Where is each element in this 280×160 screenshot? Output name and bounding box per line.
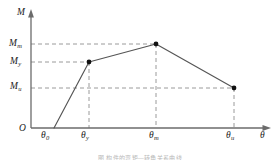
y-tick-base-Mm: M [9,38,17,48]
x-tick-sub-thetay: y [86,134,89,141]
y-tick-label-Mm: Mm [9,39,22,49]
x-tick-label-thetay: θy [81,131,89,141]
y-axis-arrow [28,9,34,18]
y-tick-label-Mu: Mu [10,82,21,92]
x-tick-base-thetay: θ [81,130,86,140]
x-tick-sub-thetam: m [154,134,159,141]
data-point-markers [87,42,237,91]
x-tick-label-thetau: θu [226,131,234,141]
y-tick-sub-My: y [18,60,21,67]
x-tick-label-theta0: θ0 [41,131,49,141]
figure-caption: 图 构件的弯矩—转角关系曲线 [0,153,280,160]
y-tick-sub-Mu: u [18,85,21,92]
x-tick-base-theta0: θ [41,130,46,140]
x-tick-base-thetau: θ [226,130,231,140]
data-point-theta-u [232,86,237,91]
y-tick-base-My: M [10,56,18,66]
x-axis-label: θ [260,131,265,141]
data-point-theta-y [87,60,92,65]
y-tick-sub-Mm: m [17,42,22,49]
x-tick-label-thetam: θm [149,131,158,141]
curve-path [54,44,234,128]
y-axis-label: M [17,8,25,18]
x-tick-sub-theta0: 0 [46,134,49,141]
origin-label: O [19,124,26,134]
x-tick-base-thetam: θ [149,130,154,140]
axes [28,9,271,131]
y-tick-base-Mu: M [10,81,18,91]
x-tick-sub-thetau: u [231,134,234,141]
data-point-theta-m [154,42,159,47]
y-tick-label-My: My [10,57,21,67]
figure-container: M θ O Mm My Mu θ0 θy θm θu 图 构件的弯矩—转角关系曲… [0,0,280,160]
